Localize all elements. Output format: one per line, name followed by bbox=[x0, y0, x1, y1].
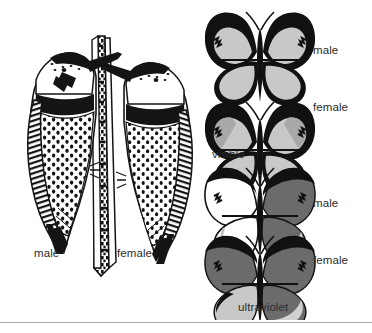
butterfly-label-female-visible: female bbox=[313, 101, 348, 113]
butterfly-group-label-ultraviolet: ultraviolet bbox=[238, 301, 288, 313]
butterfly-label-female-ultraviolet: female bbox=[313, 254, 348, 266]
figure-canvas: male female bbox=[0, 0, 372, 333]
butterfly-label-male-ultraviolet: male bbox=[313, 197, 338, 209]
bird-illustration bbox=[6, 18, 206, 280]
bird-label-male: male bbox=[34, 247, 59, 259]
bird-label-female: female bbox=[117, 247, 152, 259]
butterfly-diagrams-svg bbox=[196, 8, 372, 320]
horizontal-divider bbox=[0, 322, 372, 323]
butterfly-male-visible bbox=[205, 12, 315, 106]
butterfly-label-male-visible: male bbox=[313, 44, 338, 56]
bird-illustration-svg bbox=[6, 18, 206, 280]
butterfly-group-label-visible: visible bbox=[212, 148, 245, 160]
butterfly-diagrams bbox=[196, 8, 372, 320]
